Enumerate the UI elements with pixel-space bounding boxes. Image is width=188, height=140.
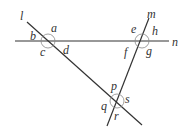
angle-label-e: e xyxy=(131,22,137,36)
angle-label-h: h xyxy=(152,24,158,38)
angle-label-r: r xyxy=(114,109,119,123)
angle-label-g: g xyxy=(146,44,152,58)
line-label-l: l xyxy=(20,9,24,23)
angle-label-p: p xyxy=(110,79,117,93)
angle-label-b: b xyxy=(30,29,36,43)
angle-label-q: q xyxy=(101,99,107,113)
angle-diagram: l m n a b c d e h f g p s q r xyxy=(0,0,188,140)
line-label-n: n xyxy=(172,35,178,49)
angle-label-s: s xyxy=(125,92,130,106)
angle-label-f: f xyxy=(124,45,129,59)
angle-label-c: c xyxy=(40,45,46,59)
angle-label-a: a xyxy=(51,21,57,35)
angle-label-d: d xyxy=(63,43,70,57)
line-l xyxy=(27,22,142,125)
line-label-m: m xyxy=(147,7,156,21)
